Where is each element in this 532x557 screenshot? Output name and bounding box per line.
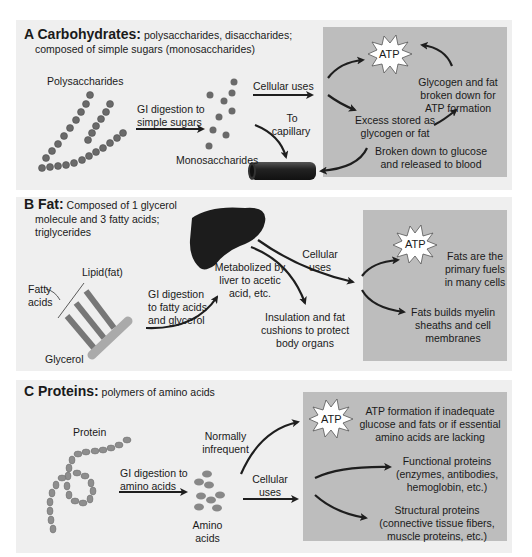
gi-digestion-amino-label-1: GI digestion to bbox=[120, 467, 188, 480]
to-capillary-label-2: capillary bbox=[266, 125, 316, 138]
fatty-acids-label-2: acids bbox=[28, 296, 53, 309]
lipid-label: Lipid(fat) bbox=[82, 266, 123, 279]
structural-proteins-label-1: Structural proteins bbox=[367, 504, 507, 517]
myelin-label-3: membranes bbox=[403, 332, 503, 345]
polysaccharides-label: Polysaccharides bbox=[47, 75, 123, 88]
fats-fuels-label-3: in many cells bbox=[440, 276, 510, 289]
insulation-label-3: body organs bbox=[255, 337, 355, 350]
proteins-title: C Proteins: polymers of amino acids bbox=[24, 385, 215, 399]
insulation-label-1: Insulation and fat bbox=[255, 311, 355, 324]
broken-down-glucose-label-1: Broken down to glucose bbox=[366, 145, 496, 158]
fats-fuels-label-2: primary fuels bbox=[440, 263, 510, 276]
normally-infrequent-label-1: Normally bbox=[198, 430, 253, 443]
functional-proteins-label-2: (enzymes, antibodies, bbox=[392, 468, 502, 481]
proteins-subtitle: polymers of amino acids bbox=[102, 386, 215, 398]
metabolized-liver-label-2: liver to acetic bbox=[210, 274, 290, 287]
glycogen-breakdown-label-2: broken down for bbox=[408, 89, 508, 102]
structural-proteins-label-3: muscle proteins, etc.) bbox=[367, 530, 507, 543]
functional-proteins-label-1: Functional proteins bbox=[392, 455, 502, 468]
monosaccharides-label: Monosaccharides bbox=[176, 154, 258, 167]
triglyceride-icon bbox=[46, 283, 128, 355]
functional-proteins-label-3: hemoglobin, etc.) bbox=[392, 481, 502, 494]
fat-subtitle-3: triglycerides bbox=[35, 226, 91, 239]
fat-subtitle-1: Composed of 1 glycerol bbox=[67, 199, 177, 211]
fat-cellular-uses-label-2: uses bbox=[295, 261, 345, 274]
excess-stored-label-1: Excess stored as bbox=[350, 114, 440, 127]
protein-cellular-uses-label-2: uses bbox=[245, 486, 295, 499]
gi-digestion-sugars-label-1: GI digestion to bbox=[137, 103, 205, 116]
gi-digestion-fat-label-2: to fatty acids bbox=[148, 301, 207, 314]
atp-formation-label-2: glucose and fats or if essential bbox=[355, 418, 505, 431]
amino-acids-label-2: acids bbox=[185, 532, 230, 545]
cellular-uses-label: Cellular uses bbox=[253, 80, 314, 93]
metabolized-liver-label-1: Metabolized by bbox=[210, 261, 290, 274]
atp-formation-label-1: ATP formation if inadequate bbox=[355, 405, 505, 418]
atp-label-carb: ATP bbox=[379, 48, 400, 60]
amino-acids-label-1: Amino bbox=[185, 519, 230, 532]
fat-subtitle-2: molecule and 3 fatty acids; bbox=[35, 213, 159, 226]
polysaccharide-chains-icon bbox=[39, 92, 127, 172]
broken-down-glucose-label-2: and released to blood bbox=[366, 158, 496, 171]
proteins-heading: C Proteins: bbox=[24, 383, 99, 399]
monosaccharide-dots-icon bbox=[206, 79, 238, 150]
myelin-label-1: Fats builds myelin bbox=[403, 306, 503, 319]
amino-acid-dots-icon bbox=[194, 471, 225, 512]
gi-digestion-sugars-label-2: simple sugars bbox=[137, 116, 202, 129]
gi-digestion-amino-label-2: amino acids bbox=[120, 480, 176, 493]
metabolized-liver-label-3: acid, etc. bbox=[210, 287, 290, 300]
atp-label-protein: ATP bbox=[321, 413, 342, 425]
atp-formation-label-3: amino acids are lacking bbox=[355, 431, 505, 444]
glycogen-breakdown-label-3: ATP formation bbox=[408, 102, 508, 115]
glycerol-label: Glycerol bbox=[45, 353, 84, 366]
excess-stored-label-2: glycogen or fat bbox=[350, 127, 440, 140]
gi-digestion-fat-label-3: and glycerol bbox=[148, 314, 205, 327]
gi-digestion-fat-label-1: GI digestion bbox=[148, 288, 204, 301]
to-capillary-label-1: To bbox=[272, 112, 312, 125]
fatty-acids-label-1: Fatty bbox=[28, 283, 51, 296]
fat-cellular-uses-label-1: Cellular bbox=[295, 248, 345, 261]
atp-label-fat: ATP bbox=[405, 238, 426, 250]
protein-cellular-uses-label-1: Cellular bbox=[245, 473, 295, 486]
normally-infrequent-label-2: infrequent bbox=[198, 443, 253, 456]
glycogen-breakdown-label-1: Glycogen and fat bbox=[408, 76, 508, 89]
myelin-label-2: sheaths and cell bbox=[403, 319, 503, 332]
structural-proteins-label-2: (connective tissue fibers, bbox=[367, 517, 507, 530]
insulation-label-2: cushions to protect bbox=[255, 324, 355, 337]
protein-label: Protein bbox=[73, 426, 106, 439]
fat-heading: B Fat: bbox=[24, 196, 64, 212]
fat-title: B Fat: Composed of 1 glycerol bbox=[24, 198, 177, 212]
fats-fuels-label-1: Fats are the bbox=[440, 250, 510, 263]
protein-chain-icon bbox=[47, 437, 131, 533]
